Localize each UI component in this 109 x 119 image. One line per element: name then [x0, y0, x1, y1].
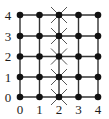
node-dot-icon — [17, 94, 24, 101]
node-dot-icon — [56, 53, 63, 60]
node-dot-icon — [36, 53, 43, 60]
x-label-3: 3 — [75, 102, 82, 117]
node-dot-icon — [95, 33, 102, 40]
node-dot-icon — [17, 74, 24, 81]
node-dot-icon — [36, 33, 43, 40]
node-dot-icon — [56, 33, 63, 40]
node-dot-icon — [36, 12, 43, 19]
node-dot-icon — [56, 74, 63, 81]
x-label-0: 0 — [17, 102, 24, 117]
x-label-1: 1 — [36, 102, 43, 117]
node-dot-icon — [95, 94, 102, 101]
node-dot-icon — [75, 33, 82, 40]
node-dot-icon — [56, 94, 63, 101]
node-dot-icon — [17, 53, 24, 60]
grid-graph-canvas: 01234 01234 — [0, 0, 109, 119]
y-label-0: 0 — [5, 90, 12, 105]
x-label-4: 4 — [95, 102, 102, 117]
node-dot-icon — [75, 12, 82, 19]
node-dot-icon — [95, 74, 102, 81]
node-dot-icon — [95, 53, 102, 60]
node-dot-icon — [17, 12, 24, 19]
x-axis-labels: 01234 — [17, 102, 102, 117]
y-label-1: 1 — [5, 70, 12, 85]
node-dot-icon — [75, 94, 82, 101]
node-dot-icon — [17, 33, 24, 40]
x-label-2: 2 — [56, 102, 63, 117]
node-dot-icon — [75, 74, 82, 81]
node-dot-icon — [36, 94, 43, 101]
node-dot-icon — [75, 53, 82, 60]
y-label-2: 2 — [5, 49, 12, 64]
node-dot-icon — [56, 12, 63, 19]
node-dot-icon — [95, 12, 102, 19]
node-dot-icon — [36, 74, 43, 81]
y-label-4: 4 — [5, 8, 12, 23]
grid-diagram: 01234 01234 — [0, 0, 109, 119]
y-label-3: 3 — [5, 29, 12, 44]
y-axis-labels: 01234 — [5, 8, 12, 105]
